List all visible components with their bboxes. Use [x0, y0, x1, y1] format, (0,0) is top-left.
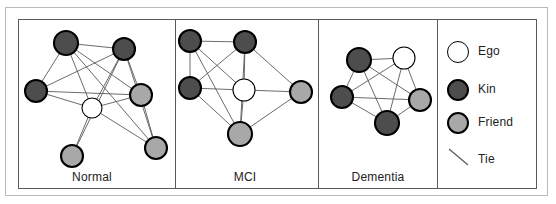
panel-label-mci: MCI — [185, 170, 305, 184]
legend-label-friend: Friend — [478, 115, 513, 129]
panel-divider-0 — [175, 19, 176, 189]
legend-kin-circle-icon — [447, 79, 469, 101]
legend-label-ego: Ego — [478, 44, 500, 58]
legend-label-tie: Tie — [478, 152, 495, 166]
figure-root: Normal MCI Dementia Ego Kin Friend Tie — [0, 0, 556, 204]
legend-ego-circle-icon — [447, 41, 469, 63]
panel-divider-2 — [437, 19, 438, 189]
legend-label-kin: Kin — [478, 82, 496, 96]
panel-divider-1 — [318, 19, 319, 189]
panel-label-dementia: Dementia — [318, 170, 438, 184]
panel-label-normal: Normal — [32, 170, 152, 184]
legend-friend-circle-icon — [447, 112, 469, 134]
